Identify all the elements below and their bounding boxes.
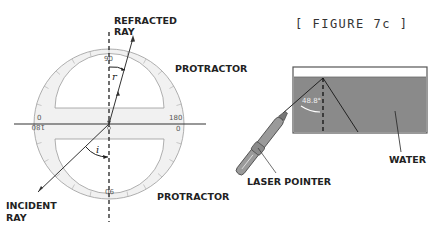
laser-pointer xyxy=(234,109,291,177)
figure-title: [ FIGURE 7c ] xyxy=(295,17,408,31)
incident-ray-label-line1: INCIDENT xyxy=(6,200,57,211)
water-tank-diagram: [ FIGURE 7c ] 48.8° LASER POINTER WATER xyxy=(234,17,427,187)
protractor-bottom-label: PROTRACTOR xyxy=(157,191,230,202)
protractor-top-label: PROTRACTOR xyxy=(175,63,248,74)
refracted-ray-label-line2: RAY xyxy=(114,26,135,37)
mark-left-0: 0 xyxy=(37,114,41,122)
angle-i-label: i xyxy=(96,144,99,155)
figure-canvas: 90 0 180 180 0 90 r i REFRACTED RAY PROT… xyxy=(0,0,437,230)
water-label: WATER xyxy=(389,154,427,165)
angle-label: 48.8° xyxy=(302,97,321,105)
protractor-diagram: 90 0 180 180 0 90 r i REFRACTED RAY PROT… xyxy=(6,15,248,223)
incident-ray-arrow xyxy=(38,186,43,192)
mark-right-180: 180 xyxy=(169,114,182,122)
laser-pointer-label: LASER POINTER xyxy=(247,176,332,187)
mark-right-0: 0 xyxy=(176,125,180,133)
laser-pointer-leader xyxy=(258,148,276,173)
refracted-ray-label-line1: REFRACTED xyxy=(114,15,177,26)
incident-ray-label-line2: RAY xyxy=(6,212,27,223)
